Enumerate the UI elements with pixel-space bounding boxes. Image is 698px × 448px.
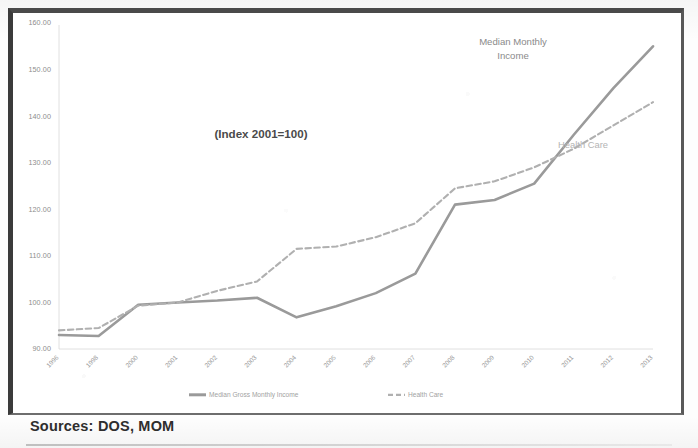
series-line-health-care xyxy=(59,102,653,330)
y-axis-tick-label: 140.00 xyxy=(28,112,51,121)
x-axis-tick-label: 2002 xyxy=(203,353,218,368)
x-axis-tick-label: 2008 xyxy=(441,353,456,368)
chart-legend: Median Gross Monthly IncomeHealth Care xyxy=(189,391,444,399)
y-axis-tick-label: 120.00 xyxy=(28,205,51,214)
x-axis-tick-label: 2013 xyxy=(639,353,654,368)
series-layer xyxy=(59,46,653,336)
x-axis-tick-label: 2000 xyxy=(124,353,139,368)
series-line-median-income xyxy=(59,46,653,336)
x-axis-tick-label: 2007 xyxy=(401,353,416,368)
y-axis-tick-label: 130.00 xyxy=(28,158,51,167)
page-bottom-rule xyxy=(26,444,672,446)
x-axis-labels: 1996199820002001200220032004200520062007… xyxy=(45,353,654,368)
scanned-page: 90.00100.00110.00120.00130.00140.00150.0… xyxy=(0,0,698,448)
x-axis-tick-label: 2001 xyxy=(164,353,179,368)
x-axis-tick-label: 1998 xyxy=(84,353,99,368)
legend-label: Health Care xyxy=(408,391,444,398)
y-axis-tick-label: 90.00 xyxy=(33,344,52,353)
annotation-median-income-line2: Income xyxy=(497,50,528,61)
y-axis-tick-label: 100.00 xyxy=(28,298,51,307)
x-axis-tick-label: 2011 xyxy=(560,353,575,368)
index-base-note: (Index 2001=100) xyxy=(214,127,307,140)
y-axis-labels: 90.00100.00110.00120.00130.00140.00150.0… xyxy=(28,18,51,353)
line-chart: 90.00100.00110.00120.00130.00140.00150.0… xyxy=(13,13,675,405)
x-axis-tick-label: 2012 xyxy=(599,353,614,368)
x-axis-tick-label: 2010 xyxy=(520,353,535,368)
annotation-layer: Median MonthlyIncomeHealth Care(Index 20… xyxy=(214,36,608,150)
legend-label: Median Gross Monthly Income xyxy=(209,391,299,399)
x-axis-tick-label: 2009 xyxy=(480,353,495,368)
y-axis-tick-label: 150.00 xyxy=(28,65,51,74)
sources-note: Sources: DOS, MOM xyxy=(30,418,174,434)
y-axis-tick-label: 110.00 xyxy=(29,251,51,260)
annotation-median-income: Median Monthly xyxy=(479,36,547,47)
annotation-health-care: Health Care xyxy=(558,139,608,150)
chart-svg: 90.00100.00110.00120.00130.00140.00150.0… xyxy=(13,13,675,405)
x-axis-tick-label: 2003 xyxy=(243,353,258,368)
x-axis-tick-label: 2005 xyxy=(322,353,337,368)
x-axis-tick-label: 2006 xyxy=(362,353,377,368)
x-axis-tick-label: 2004 xyxy=(282,353,297,368)
y-axis-tick-label: 160.00 xyxy=(28,18,51,27)
x-axis-tick-label: 1996 xyxy=(45,353,60,368)
